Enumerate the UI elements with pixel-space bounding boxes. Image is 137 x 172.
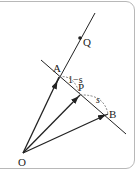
label-A: A: [53, 62, 61, 74]
vector-OP: [23, 95, 80, 153]
label-s: s: [96, 94, 100, 105]
point-Q: [78, 36, 82, 40]
label-B: B: [109, 108, 116, 120]
label-Q: Q: [83, 36, 91, 48]
vector-OB: [23, 114, 108, 153]
label-one-minus-s: 1−s: [68, 74, 83, 85]
label-O: O: [18, 156, 26, 168]
vector-diagram: O A P B Q 1−s s: [0, 0, 137, 172]
vector-OA: [23, 77, 59, 153]
